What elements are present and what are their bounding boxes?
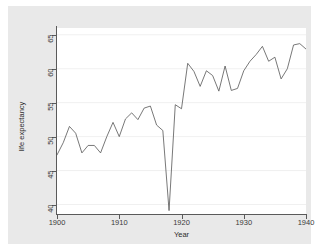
x-axis-tick-label: 1920 — [162, 218, 202, 227]
x-axis-title: Year — [57, 230, 306, 239]
y-axis-title-label: life expectancy — [17, 82, 26, 172]
x-axis-tick-label: 1930 — [224, 218, 264, 227]
x-axis-tick-label: 1940 — [286, 218, 319, 227]
y-axis-title: life expectancy — [15, 81, 27, 171]
y-axis-tick-label-wrap: 60 — [32, 64, 50, 73]
y-axis-tick-label: 50 — [46, 137, 55, 145]
y-axis-tick-label: 40 — [46, 205, 55, 213]
y-axis-tick-label-wrap: 50 — [32, 132, 50, 141]
x-axis-tick-label: 1910 — [99, 218, 139, 227]
figure: 404550556065 19001910192019301940 life e… — [0, 0, 319, 252]
y-axis-tick-label-wrap: 65 — [32, 30, 50, 39]
x-axis-title-label: Year — [174, 230, 189, 239]
series-line-chart — [57, 28, 306, 214]
y-axis-tick-label: 65 — [46, 35, 55, 43]
y-axis-line — [56, 26, 57, 215]
y-axis-tick-label: 60 — [46, 69, 55, 77]
plot-area — [57, 28, 306, 214]
y-axis-tick-label-wrap: 55 — [32, 98, 50, 107]
y-axis-tick-label: 45 — [46, 171, 55, 179]
y-axis-tick-label-wrap: 40 — [32, 200, 50, 209]
graph-region: 404550556065 19001910192019301940 life e… — [8, 6, 311, 244]
y-axis-tick-label: 55 — [46, 103, 55, 111]
x-axis-tick-label: 1900 — [37, 218, 77, 227]
y-axis-tick-label-wrap: 45 — [32, 166, 50, 175]
